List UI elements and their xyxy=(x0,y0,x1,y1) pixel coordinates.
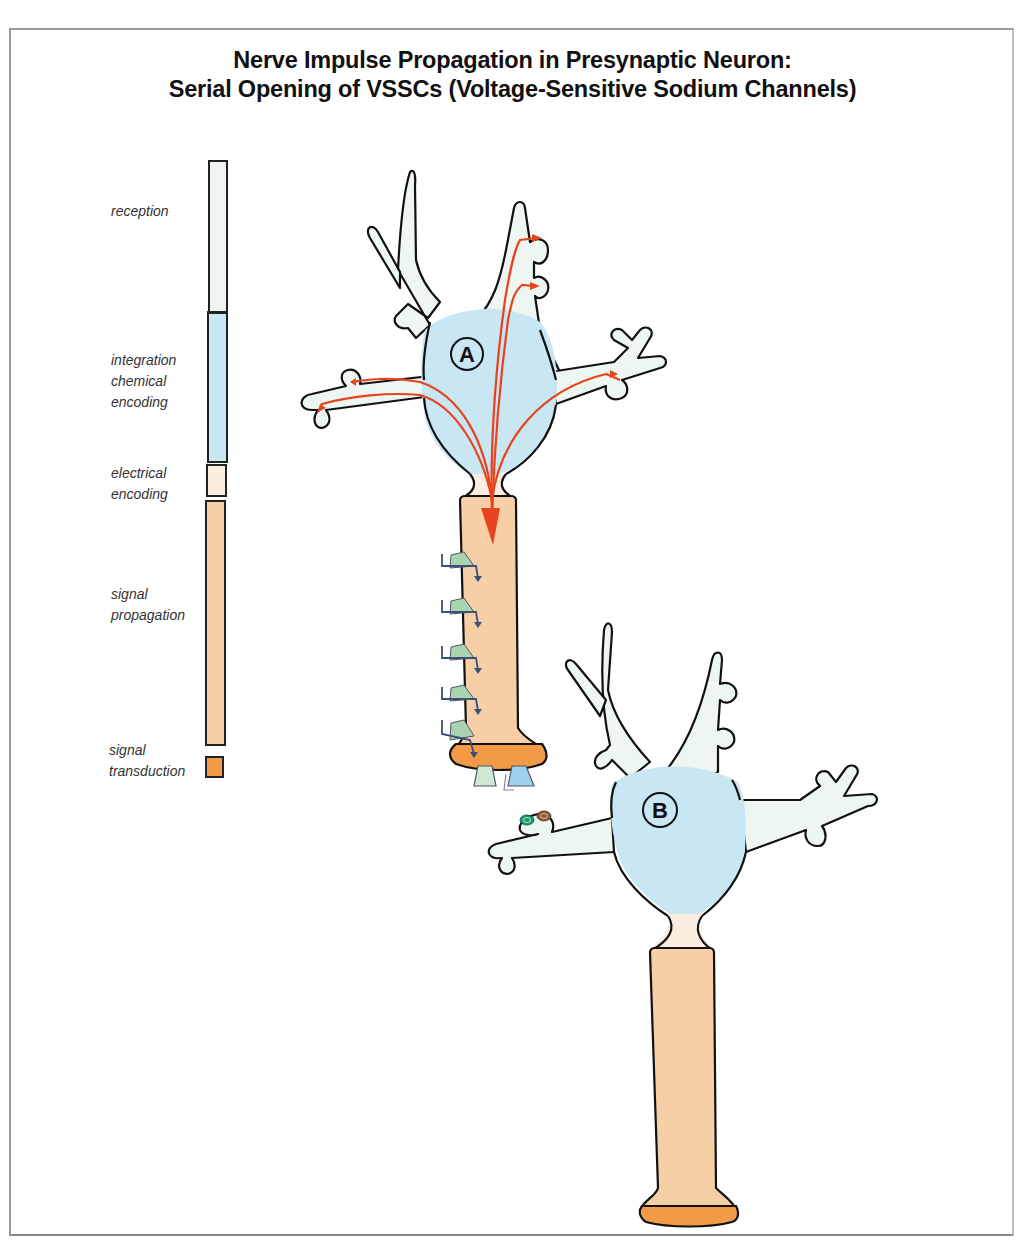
neuron-diagram: A xyxy=(0,0,1025,1252)
neuron-a-label: A xyxy=(451,338,483,370)
neuron-b-dendrite-right xyxy=(740,766,877,852)
neuron-a-dendrite-left xyxy=(302,370,433,428)
neuron-b-label: B xyxy=(643,793,677,827)
neuron-b-dendrite-left xyxy=(489,814,614,874)
neuron-b-terminal xyxy=(640,1206,738,1227)
neuron-a-dendrite-right xyxy=(550,328,666,404)
svg-text:B: B xyxy=(652,798,668,823)
svg-text:A: A xyxy=(459,342,475,367)
neuron-a: A xyxy=(302,171,667,790)
neuron-b-axon xyxy=(640,948,736,1210)
neuron-a-dendrite-upper-left xyxy=(395,171,440,338)
neuron-b: B xyxy=(489,623,877,1226)
neuron-a-terminal xyxy=(450,744,547,770)
neuron-a-axon xyxy=(456,496,542,748)
